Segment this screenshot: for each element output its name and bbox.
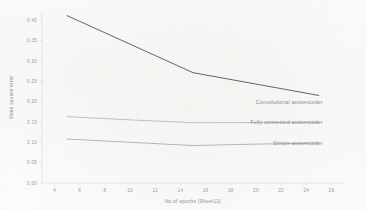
series-inline-labels: Convolutional autoencoderFully connected… bbox=[251, 99, 323, 145]
x-tick-label: 12 bbox=[152, 188, 158, 193]
y-tick-label: 0.00 bbox=[27, 181, 37, 186]
chart-figure: 0.000.050.100.150.200.250.300.350.40 468… bbox=[0, 0, 366, 210]
y-tick-label: 0.35 bbox=[27, 38, 37, 43]
x-axis-ticks: 468101214161820222426 bbox=[53, 183, 334, 193]
x-tick-label: 6 bbox=[78, 188, 81, 193]
y-tick-label: 0.15 bbox=[27, 120, 37, 125]
x-tick-label: 14 bbox=[178, 188, 184, 193]
series-label-2: Simple autoencoder bbox=[273, 140, 323, 146]
x-tick-label: 4 bbox=[53, 188, 56, 193]
series-label-0: Convolutional autoencoder bbox=[256, 99, 323, 105]
x-tick-label: 18 bbox=[228, 188, 234, 193]
x-tick-label: 8 bbox=[104, 188, 107, 193]
y-axis-title: Mean square error bbox=[9, 75, 14, 119]
x-tick-label: 20 bbox=[253, 188, 259, 193]
y-tick-label: 0.20 bbox=[27, 99, 37, 104]
x-tick-label: 22 bbox=[278, 188, 284, 193]
y-tick-label: 0.40 bbox=[27, 18, 37, 23]
y-axis-ticks: 0.000.050.100.150.200.250.300.350.40 bbox=[27, 18, 42, 186]
x-axis-title: No of epochs (Sheet13) bbox=[165, 199, 221, 204]
y-tick-label: 0.30 bbox=[27, 59, 37, 64]
x-tick-label: 26 bbox=[329, 188, 335, 193]
y-tick-label: 0.05 bbox=[27, 160, 37, 165]
y-tick-label: 0.25 bbox=[27, 79, 37, 84]
line-chart-plot: 0.000.050.100.150.200.250.300.350.40 468… bbox=[0, 0, 366, 210]
series-label-1: Fully connected autoencoder bbox=[251, 119, 323, 125]
y-tick-label: 0.10 bbox=[27, 140, 37, 145]
data-series-group bbox=[67, 16, 319, 146]
series-line-0 bbox=[67, 16, 319, 96]
x-tick-label: 24 bbox=[303, 188, 309, 193]
x-tick-label: 16 bbox=[203, 188, 209, 193]
x-tick-label: 10 bbox=[127, 188, 133, 193]
